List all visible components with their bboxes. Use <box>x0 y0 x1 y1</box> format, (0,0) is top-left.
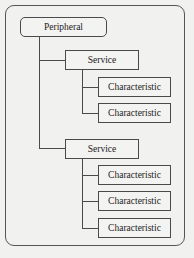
connector-service-2-char-1 <box>82 175 98 176</box>
peripheral-node: Peripheral <box>20 17 107 37</box>
characteristic-label: Characteristic <box>108 82 161 92</box>
connector-root-service-1 <box>39 60 65 61</box>
connector-service-2-char-2 <box>82 201 98 202</box>
characteristic-label: Characteristic <box>108 223 161 233</box>
connector-service-1-char-2 <box>82 113 98 114</box>
characteristic-label: Characteristic <box>108 170 161 180</box>
connector-service-1-char-1 <box>82 87 98 88</box>
connector-service-2-trunk <box>82 158 83 228</box>
characteristic-label: Characteristic <box>108 108 161 118</box>
characteristic-node-2-1: Characteristic <box>98 165 171 185</box>
peripheral-label: Peripheral <box>44 22 83 32</box>
characteristic-node-2-2: Characteristic <box>98 191 171 211</box>
connector-root-service-2 <box>39 148 65 149</box>
service-node-1: Service <box>65 50 139 70</box>
characteristic-node-1-1: Characteristic <box>98 77 171 97</box>
service-node-2: Service <box>65 139 139 159</box>
characteristic-label: Characteristic <box>108 196 161 206</box>
connector-service-1-trunk <box>82 70 83 113</box>
service-label: Service <box>88 55 117 65</box>
characteristic-node-1-2: Characteristic <box>98 103 171 123</box>
connector-root-trunk <box>39 37 40 149</box>
characteristic-node-2-3: Characteristic <box>98 218 171 238</box>
connector-service-2-char-3 <box>82 228 98 229</box>
service-label: Service <box>88 144 117 154</box>
